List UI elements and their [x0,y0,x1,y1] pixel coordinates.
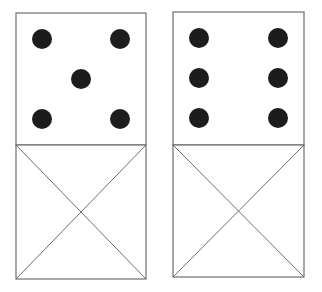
pip [110,29,130,49]
pip [110,109,130,129]
pip [32,29,52,49]
pip [189,68,209,88]
pip [32,109,52,129]
pip [268,108,288,128]
pip [268,28,288,48]
pip [268,68,288,88]
domino-five [16,13,146,279]
domino-six [173,12,304,277]
pip [71,69,91,89]
pip [189,28,209,48]
dominoes-diagram [0,0,322,292]
pip [189,108,209,128]
